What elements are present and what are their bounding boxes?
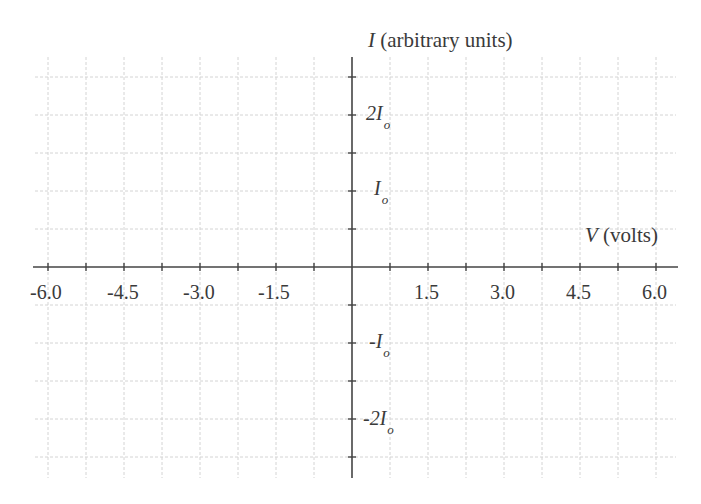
y-tick-label-2io: 2Io [366,103,390,123]
x-units: (volts) [603,223,658,247]
x-tick-label: 6.0 [642,282,667,302]
y-tick-label-neg-2io: -2Io [363,408,394,428]
x-tick-label: 3.0 [490,282,515,302]
x-axis-label: V (volts) [585,225,658,246]
plot-area [0,0,701,504]
x-tick-label: -3.0 [183,282,215,302]
x-tick-label: -4.5 [107,282,139,302]
y-tick-label-neg-io: -Io [369,331,390,351]
y-var: I [368,28,375,52]
x-tick-label: 4.5 [566,282,591,302]
x-tick-label: -1.5 [258,282,290,302]
x-var: V [585,223,598,247]
x-tick-label: 1.5 [414,282,439,302]
y-tick-label-io: Io [374,178,388,198]
y-units: (arbitrary units) [380,28,512,52]
x-tick-label: -6.0 [30,282,62,302]
y-axis-label: I (arbitrary units) [368,30,513,51]
